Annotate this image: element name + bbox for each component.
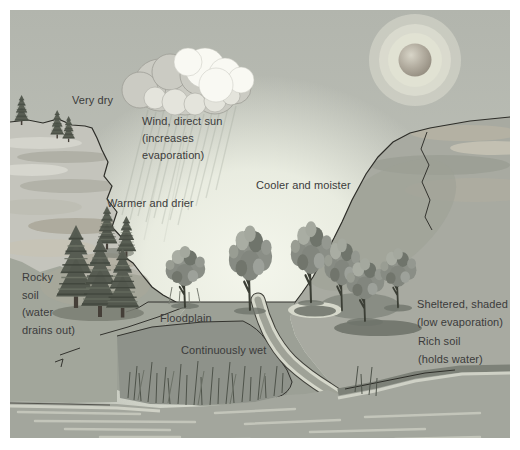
label-wind-direct-sun: Wind, direct sun (increases evaporation) — [142, 113, 222, 164]
label-cooler-moister: Cooler and moister — [256, 177, 351, 194]
label-continuously-wet: Continuously wet — [181, 342, 266, 359]
label-sheltered-shaded: Sheltered, shaded (low evaporation) — [417, 295, 508, 331]
valley-illustration: Very dry Wind, direct sun (increases eva… — [10, 10, 510, 438]
label-rich-soil: Rich soil (holds water) — [418, 332, 483, 368]
label-warmer-drier: Warmer and drier — [107, 195, 194, 212]
figure-page: Very dry Wind, direct sun (increases eva… — [0, 0, 520, 450]
landscape-svg — [10, 10, 510, 438]
label-rocky-soil: Rocky soil (water drains out) — [22, 269, 75, 339]
label-very-dry: Very dry — [72, 92, 113, 109]
label-floodplain: Floodplain — [160, 310, 212, 327]
sun-icon — [369, 14, 461, 106]
